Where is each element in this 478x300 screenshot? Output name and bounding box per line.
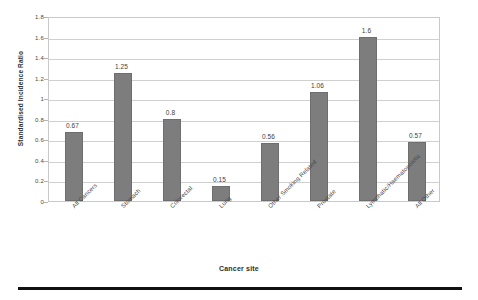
y-axis-tick-mark bbox=[44, 17, 48, 18]
y-axis-tick-mark bbox=[44, 140, 48, 141]
y-axis-tick-mark bbox=[44, 79, 48, 80]
y-axis-tick-label: 1 bbox=[4, 96, 44, 102]
bar bbox=[261, 143, 279, 201]
gridline bbox=[49, 121, 439, 122]
y-axis-tick-label: 1.4 bbox=[4, 55, 44, 61]
y-axis-tick-label: 1.8 bbox=[4, 14, 44, 20]
y-axis-tick-label: 1.6 bbox=[4, 35, 44, 41]
gridline bbox=[49, 59, 439, 60]
bar-value-label: 1.6 bbox=[347, 28, 387, 35]
bar-value-label: 0.57 bbox=[396, 133, 436, 140]
bar-value-label: 0.8 bbox=[151, 110, 191, 117]
y-axis-tick-mark bbox=[44, 181, 48, 182]
gridline bbox=[49, 80, 439, 81]
gridline bbox=[49, 182, 439, 183]
y-axis-tick-mark bbox=[44, 99, 48, 100]
y-axis-tick-label: 0 bbox=[4, 199, 44, 205]
bar-chart-figure: 1.81.61.41.210.80.60.40.20 All CancersSt… bbox=[0, 0, 478, 300]
bar bbox=[65, 132, 83, 201]
bar-value-label: 0.67 bbox=[53, 123, 93, 130]
gridline bbox=[49, 141, 439, 142]
y-axis-tick-label: 0.2 bbox=[4, 178, 44, 184]
y-axis-tick-label: 0.4 bbox=[4, 158, 44, 164]
gridline bbox=[49, 39, 439, 40]
bar-value-label: 0.56 bbox=[249, 134, 289, 141]
gridline bbox=[49, 162, 439, 163]
bar-value-label: 1.25 bbox=[102, 64, 142, 71]
bar bbox=[359, 37, 377, 201]
bar bbox=[310, 92, 328, 201]
y-axis-tick-label: 0.6 bbox=[4, 137, 44, 143]
y-axis-tick-label: 0.8 bbox=[4, 117, 44, 123]
y-axis-tick-mark bbox=[44, 161, 48, 162]
x-axis-title: Cancer site bbox=[0, 265, 478, 272]
bar-value-label: 1.06 bbox=[298, 83, 338, 90]
bar bbox=[408, 142, 426, 201]
y-axis-tick-label: 1.2 bbox=[4, 76, 44, 82]
bar bbox=[163, 119, 181, 201]
gridline bbox=[49, 100, 439, 101]
y-axis-tick-mark bbox=[44, 120, 48, 121]
bottom-divider-rule bbox=[18, 287, 462, 290]
y-axis-tick-mark bbox=[44, 58, 48, 59]
bar bbox=[114, 73, 132, 201]
y-axis-title: Standardised Incidence Ratio bbox=[17, 24, 24, 174]
plot-area bbox=[48, 17, 440, 202]
y-axis-tick-mark bbox=[44, 38, 48, 39]
y-axis-tick-mark bbox=[44, 202, 48, 203]
bar-value-label: 0.15 bbox=[200, 177, 240, 184]
